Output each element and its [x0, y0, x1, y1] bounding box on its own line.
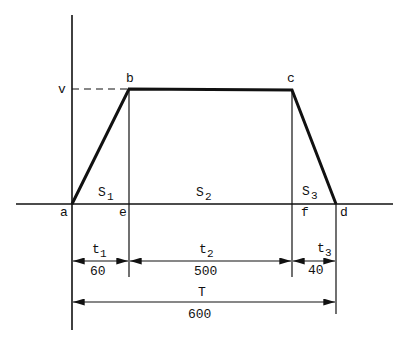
velocity-time-diagram: v b c a e f d S 1 S 2 S 3 t 1 60 t 2 500… [0, 0, 410, 343]
svg-text:t: t [317, 241, 325, 256]
point-f-label: f [301, 205, 309, 220]
v-label: v [58, 82, 66, 97]
svg-text:2: 2 [207, 248, 214, 260]
point-b-label: b [126, 71, 134, 86]
svg-text:60: 60 [90, 264, 106, 279]
svg-text:40: 40 [308, 263, 324, 278]
svg-text:3: 3 [325, 247, 332, 259]
svg-text:t: t [199, 242, 207, 257]
area-s1-label: S 1 [98, 185, 114, 203]
svg-text:500: 500 [194, 264, 217, 279]
total-T-value: 600 [188, 307, 211, 322]
svg-text:S: S [98, 185, 106, 200]
t3-label: t 3 40 [308, 241, 332, 278]
point-d-label: d [340, 205, 348, 220]
svg-text:2: 2 [205, 191, 212, 203]
area-s2-label: S 2 [196, 185, 212, 203]
point-a-label: a [60, 205, 68, 220]
svg-text:S: S [196, 185, 204, 200]
svg-text:S: S [302, 184, 310, 199]
svg-text:1: 1 [107, 191, 114, 203]
velocity-profile [72, 89, 336, 204]
svg-text:1: 1 [100, 248, 107, 260]
total-T-label: T [198, 285, 206, 300]
area-s3-label: S 3 [302, 184, 318, 202]
point-c-label: c [287, 71, 295, 86]
point-e-label: e [119, 205, 127, 220]
svg-text:3: 3 [311, 190, 318, 202]
svg-text:t: t [92, 242, 100, 257]
